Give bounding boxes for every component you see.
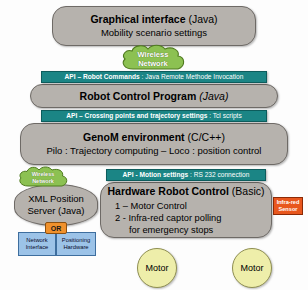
motor-circle-left: Motor — [137, 248, 177, 288]
infra-red-sensor-box: Infra-red Sensor — [273, 197, 303, 215]
api-trajectory-bold: API – Crossing points and trajectory set… — [66, 112, 207, 119]
genom-title: GenoM environment (C/C++) — [83, 131, 225, 144]
graphical-interface-title: Graphical interface (Java) — [90, 13, 217, 26]
positioning-hardware-box: Positioning Hardware — [56, 232, 96, 256]
cloud-shape-icon — [119, 44, 187, 74]
hardware-list-line2: 2 - Infra-red captor polling — [115, 212, 221, 224]
motor-circle-right: Motor — [232, 248, 272, 288]
layer-genom-environment: GenoM environment (C/C++) Pilo : Traject… — [20, 123, 288, 165]
hardware-control-title: Hardware Robot Control (Basic) — [101, 185, 271, 197]
api-trajectory-light: : Tcl scripts — [207, 112, 241, 119]
architecture-diagram: Graphical interface (Java) Mobility scen… — [0, 0, 308, 290]
layer-robot-control-program: Robot Control Program (Java) — [30, 84, 278, 108]
infra-red-sensor-line1: Infra-red — [277, 199, 300, 206]
hardware-list-line3: for emergency stops — [115, 224, 221, 236]
infra-red-sensor-line2: Sensor — [279, 206, 298, 213]
or-badge: OR — [45, 222, 67, 234]
graphical-interface-subtitle: Mobility scenario settings — [101, 26, 207, 39]
xml-server-line2: Server (Java) — [27, 205, 84, 217]
network-interface-line1: Network — [26, 237, 47, 245]
positioning-hardware-line1: Positioning — [62, 237, 90, 245]
motor-right-label: Motor — [240, 263, 263, 273]
api-motion-bold: API - Motion settings — [123, 171, 189, 178]
layer-hardware-robot-control: Hardware Robot Control (Basic) 1 – Motor… — [100, 182, 272, 238]
hardware-list-line1: 1 – Motor Control — [115, 200, 221, 212]
network-interface-line2: Interface — [26, 244, 49, 252]
motor-left-label: Motor — [145, 263, 168, 273]
wireless-network-cloud-left: Wireless Network — [17, 166, 69, 190]
api-bar-motion-settings: API - Motion settings : RS 232 connectio… — [106, 169, 266, 181]
api-robot-commands-bold: API – Robot Commands — [65, 73, 140, 80]
api-bar-trajectory-settings: API – Crossing points and trajectory set… — [41, 110, 267, 122]
network-interface-box: Network Interface — [18, 232, 56, 256]
or-badge-label: OR — [51, 225, 62, 232]
wireless-network-cloud-top: Wireless Network — [119, 44, 187, 74]
xml-server-line1: XML Position — [28, 193, 84, 205]
xml-position-server: XML Position Server (Java) — [14, 184, 98, 226]
api-robot-commands-light: : Java Remote Methode Invocation — [140, 73, 244, 80]
layer-graphical-interface: Graphical interface (Java) Mobility scen… — [52, 6, 256, 46]
robot-control-program-title: Robot Control Program (Java) — [80, 90, 229, 103]
cloud-shape-icon — [17, 166, 69, 190]
positioning-hardware-line2: Hardware — [63, 244, 88, 252]
api-motion-light: : RS 232 connection — [188, 171, 249, 178]
hardware-control-list: 1 – Motor Control 2 - Infra-red captor p… — [115, 200, 221, 236]
genom-subtitle: Pilo : Trajectory computing – Loco : pos… — [47, 144, 262, 157]
